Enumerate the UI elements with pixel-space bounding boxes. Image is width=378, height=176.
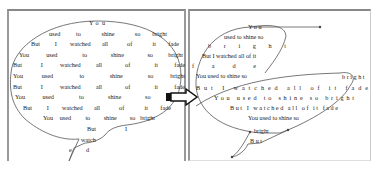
bubble-word: to xyxy=(82,51,87,58)
bubble-word: d xyxy=(86,146,90,153)
bubble-word: used xyxy=(42,72,54,79)
bubble-word: I xyxy=(41,83,43,90)
bubble-word: so xyxy=(130,114,136,121)
control-point[interactable] xyxy=(249,131,251,133)
right-panel: Y o uused to shine sob r i g h tBut I wa… xyxy=(188,9,371,161)
bubble-line: You used to shine so xyxy=(248,114,299,121)
bubble-word: But xyxy=(87,125,96,132)
bubble-line: But I watched all of it fade xyxy=(230,104,338,111)
right-bubble-text: Y o uused to shine sob r i g h tBut I wa… xyxy=(192,23,368,144)
bubble-word: so xyxy=(148,72,154,79)
bubble-word: used xyxy=(46,51,58,58)
control-point[interactable] xyxy=(231,156,233,158)
transform-arrow xyxy=(166,88,198,106)
left-bubble-canvas: YouusedtoshinesobrightButIwatchedallofit… xyxy=(9,11,188,163)
bubble-word: all xyxy=(102,40,108,47)
bubble-word: I xyxy=(47,104,49,111)
bubble-word: used xyxy=(43,93,55,100)
bubble-word: it xyxy=(153,40,157,47)
bubble-line: f a d e xyxy=(192,62,256,69)
bubble-line: bright xyxy=(254,127,269,134)
bubble-word: shine xyxy=(108,93,121,100)
bubble-word: You xyxy=(13,72,23,79)
bubble-word: watched xyxy=(62,104,84,111)
bubble-word: fade xyxy=(174,61,185,68)
bubble-word: I xyxy=(55,40,57,47)
bubble-word: watched xyxy=(60,83,82,90)
bubble-line: You used to shine so bright xyxy=(214,94,354,101)
bubble-line: But I watched all of it xyxy=(202,52,256,59)
bubble-word: so xyxy=(145,93,151,100)
bubble-word: all xyxy=(94,104,100,111)
bubble-word: to xyxy=(79,93,84,100)
bubble-line: You used to shine so xyxy=(196,72,247,79)
bubble-word: Y xyxy=(89,19,94,26)
bubble-word: watch xyxy=(81,136,97,143)
bubble-word: used xyxy=(60,114,72,121)
bubble-word: it xyxy=(155,83,159,90)
bubble-word: used xyxy=(49,30,61,37)
bubble-word: bright xyxy=(140,114,155,121)
bubble-word: all xyxy=(96,61,102,68)
bubble-word: But xyxy=(13,83,22,90)
bubble-word: watched xyxy=(70,40,92,47)
control-point[interactable] xyxy=(287,129,289,131)
bubble-word: You xyxy=(43,114,53,121)
bubble-word: to xyxy=(79,72,84,79)
bubble-word: of xyxy=(127,40,133,47)
bubble-word: of xyxy=(125,61,131,68)
bubble-word: shine xyxy=(110,72,123,79)
left-panel: YouusedtoshinesobrightButIwatchedallofit… xyxy=(7,9,186,161)
right-bubble-canvas: Y o uused to shine sob r i g h tBut I wa… xyxy=(190,11,373,163)
bubble-word: it xyxy=(145,104,149,111)
bubble-line: But I watched all of it fade xyxy=(196,84,368,91)
bubble-word: But xyxy=(23,104,32,111)
bubble-word: so xyxy=(147,51,153,58)
bubble-word: But xyxy=(13,61,22,68)
bubble-line: b r i g h t xyxy=(208,42,286,49)
bubble-word: to xyxy=(85,114,90,121)
bubble-line: Y o u xyxy=(248,23,262,30)
bubble-word: e xyxy=(69,146,72,153)
bubble-word: of xyxy=(119,104,125,111)
bubble-word: u xyxy=(102,19,105,26)
control-point[interactable] xyxy=(319,26,321,28)
bubble-word: o xyxy=(95,19,98,26)
bubble-word: You xyxy=(19,51,29,58)
bubble-word: shine xyxy=(111,51,124,58)
bubble-word: watched xyxy=(60,61,82,68)
bubble-word: all xyxy=(96,83,102,90)
bubble-word: to xyxy=(76,30,81,37)
bubble-word: shine xyxy=(104,114,117,121)
bubble-word: bright xyxy=(168,51,183,58)
left-bubble-text: YouusedtoshinesobrightButIwatchedallofit… xyxy=(13,19,185,153)
bubble-line: B u t xyxy=(250,137,262,144)
bubble-word: of xyxy=(125,83,131,90)
bubble-word: so xyxy=(135,30,141,37)
bubble-word: it xyxy=(155,61,159,68)
bubble-word: fade xyxy=(168,40,179,47)
bubble-word: You xyxy=(15,93,25,100)
bubble-line: used to shine so xyxy=(224,33,263,40)
bubble-word: bright xyxy=(152,30,167,37)
bubble-line: b r i g h t xyxy=(342,73,365,80)
bubble-word: But xyxy=(31,40,40,47)
bubble-word: I xyxy=(41,61,43,68)
bubble-word: shine xyxy=(101,30,114,37)
bubble-word: I xyxy=(125,125,127,132)
bubble-word: bright xyxy=(170,72,185,79)
